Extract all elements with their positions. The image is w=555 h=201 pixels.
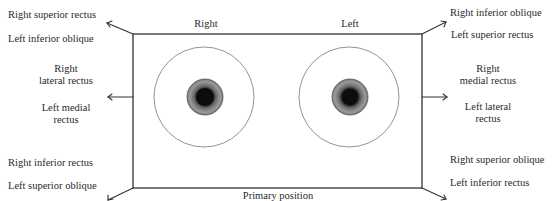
left-eye-icon: [299, 47, 399, 147]
arrow-left-icon: [108, 94, 133, 100]
bottom-left-label-1: Right inferior rectus: [8, 157, 93, 169]
left-side-label-a2: lateral rectus: [30, 75, 102, 87]
left-side-label-b1: Left medial: [30, 102, 102, 114]
left-side-label-a1: Right: [30, 63, 102, 75]
bottom-left-label-2: Left superior oblique: [8, 180, 97, 192]
right-eye-icon: [154, 47, 254, 147]
right-side-label-a2: medial rectus: [448, 75, 528, 87]
left-eye-label: Left: [330, 18, 370, 30]
arrow-right-icon: [422, 94, 447, 100]
bottom-right-label-1: Right superior oblique: [450, 154, 545, 166]
bottom-right-label-2: Left inferior rectus: [450, 177, 529, 189]
right-eye-label: Right: [186, 18, 226, 30]
top-left-label-2: Left inferior oblique: [8, 33, 94, 45]
primary-position-label: Primary position: [218, 190, 338, 201]
arrow-down-left-icon: [108, 188, 133, 200]
arrow-down-right-icon: [422, 188, 446, 200]
arrow-up-right-icon: [422, 21, 446, 34]
right-side-label-b1: Left lateral: [448, 101, 528, 113]
top-right-label-2: Left superior rectus: [451, 29, 533, 41]
right-side-label-b2: rectus: [448, 113, 528, 125]
right-side-label-a1: Right: [448, 63, 528, 75]
arrow-up-left-icon: [107, 21, 133, 34]
left-side-label-b2: rectus: [30, 114, 102, 126]
top-left-label-1: Right superior rectus: [8, 9, 96, 21]
top-right-label-1: Right inferior oblique: [450, 7, 542, 19]
